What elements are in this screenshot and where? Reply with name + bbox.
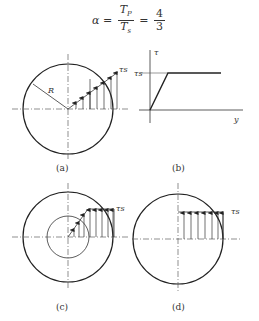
caption-a: (a) — [56, 163, 68, 173]
stress-arrows — [76, 73, 117, 109]
yield-stress-label: τs — [134, 69, 143, 78]
figure-d: τs (d) — [132, 183, 240, 312]
tau-axis-label: τ — [154, 48, 159, 57]
stress-label-tau-s: τs — [119, 65, 128, 74]
stress-strain-curve — [150, 73, 221, 110]
stress-label-tau-s: τs — [116, 204, 125, 213]
caption-d: (d) — [172, 302, 185, 312]
caption-c: (c) — [56, 302, 68, 312]
stress-label-tau-s: τs — [231, 207, 240, 216]
figure-a: R τs (a) — [12, 54, 128, 173]
y-axis-label: y — [233, 115, 239, 124]
figure-b: τ τs y (b) — [134, 48, 243, 173]
figure-c: τs (c) — [12, 183, 130, 312]
radius-label: R — [47, 86, 54, 95]
stress-distribution-line — [68, 72, 118, 109]
torsion-diagrams: R τs (a) τ τs y (b) — [0, 0, 259, 321]
stress-distribution-line — [68, 209, 114, 237]
caption-b: (b) — [172, 163, 185, 173]
